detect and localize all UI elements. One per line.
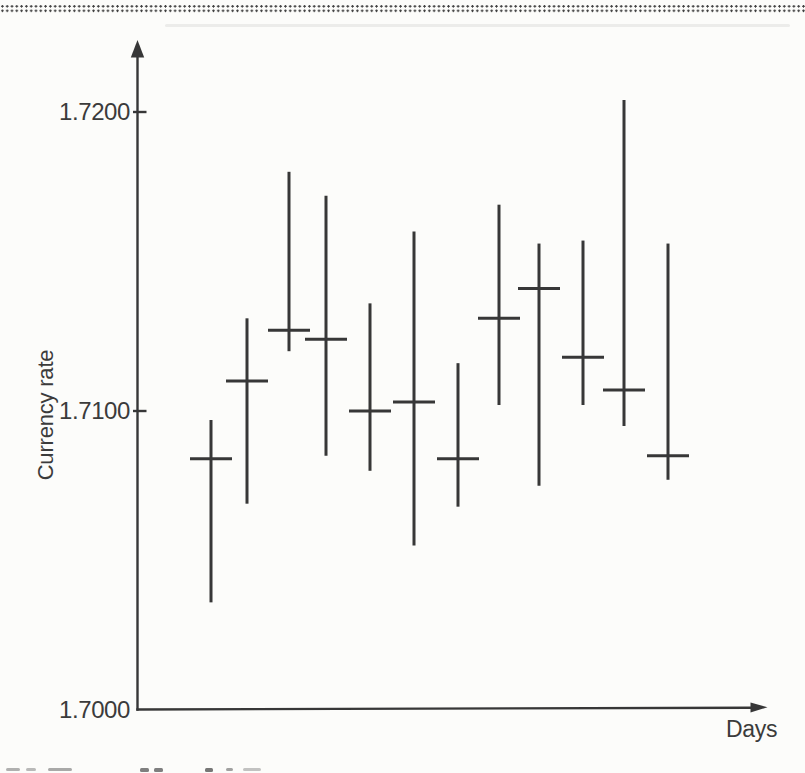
y-axis-title: Currency rate — [33, 350, 59, 481]
cutoff-text-artifact — [26, 768, 36, 771]
hlc-bar-day-5 — [349, 303, 391, 470]
hlc-bar-day-10 — [562, 241, 604, 405]
hlc-bar-day-3 — [268, 172, 310, 351]
y-tick-label-1-7200: 1.7200 — [40, 97, 130, 127]
hlc-bar-day-6 — [393, 232, 435, 546]
x-axis-title: Days — [726, 716, 777, 743]
hlc-bar-day-1 — [190, 420, 232, 602]
cutoff-text-artifact — [154, 768, 163, 772]
y-axis-arrowhead-icon — [131, 40, 144, 58]
hlc-bar-day-7 — [437, 363, 479, 507]
cutoff-text-artifact — [140, 768, 149, 772]
cutoff-text-artifact — [205, 768, 213, 772]
cutoff-text-artifact — [6, 768, 20, 771]
cutoff-text-artifact — [226, 768, 233, 771]
hlc-bar-day-12 — [647, 244, 689, 480]
hlc-bar-day-11 — [603, 100, 645, 426]
figure-canvas: 1.7200 1.7100 1.7000 Currency rate Days — [0, 0, 805, 773]
x-axis-line — [136, 708, 752, 710]
y-tick-label-1-7000: 1.7000 — [40, 695, 130, 725]
hlc-bar-day-8 — [478, 205, 520, 405]
cutoff-text-artifact — [48, 768, 72, 771]
hlc-bar-day-4 — [305, 196, 347, 456]
hlc-bar-day-2 — [226, 318, 268, 503]
cutoff-text-artifact — [243, 768, 261, 771]
x-axis-arrowhead-icon — [751, 703, 768, 713]
hlc-bar-day-9 — [518, 244, 560, 486]
